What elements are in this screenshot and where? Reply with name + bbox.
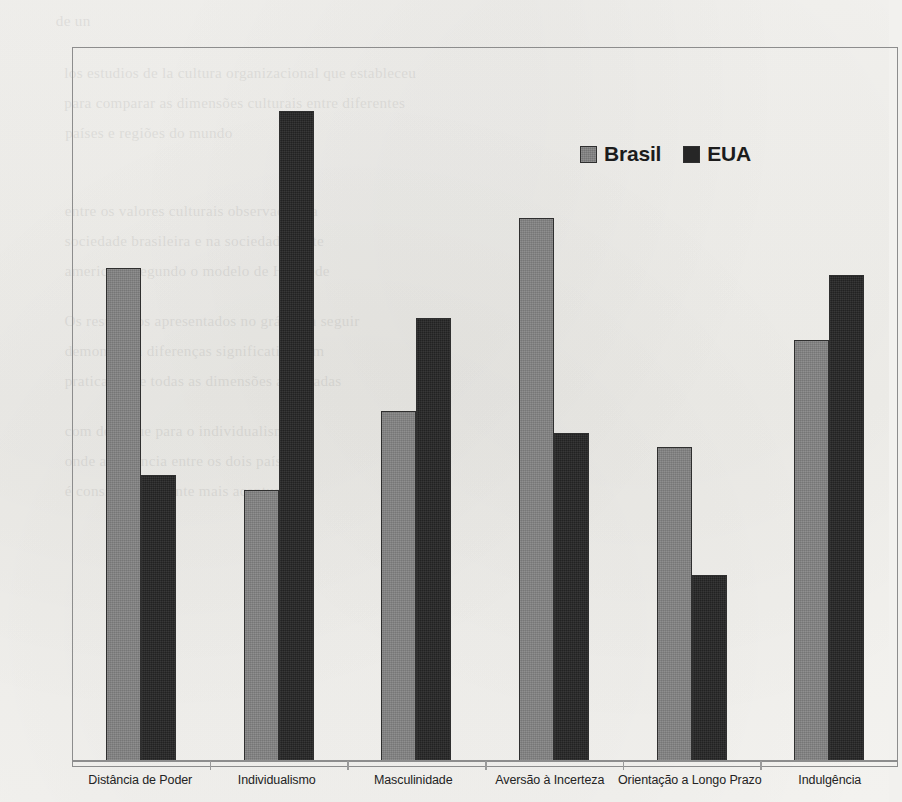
category-label-1: Individualismo [209,773,346,799]
plot-area [72,47,898,761]
category-label-5: Indulgência [762,773,899,799]
bar-eua-5[interactable] [829,275,864,761]
bar-brasil-2[interactable] [381,411,416,761]
legend-label-brasil: Brasil [604,142,661,166]
category-label-3: Aversão à Incerteza [482,773,619,799]
legend-label-eua: EUA [707,142,751,166]
bar-group [760,47,898,761]
bar-brasil-4[interactable] [657,447,692,761]
axis-tick-2 [347,761,349,770]
legend-entry-eua[interactable]: EUA [683,142,751,166]
legend-entry-brasil[interactable]: Brasil [580,142,661,166]
x-axis-category-labels: Distância de PoderIndividualismoMasculin… [72,773,898,799]
bar-brasil-5[interactable] [794,340,829,761]
legend-swatch-brasil-icon [580,146,597,163]
bar-groups [72,47,898,761]
bar-eua-0[interactable] [141,475,176,761]
bar-group [210,47,348,761]
bar-brasil-3[interactable] [519,218,554,761]
bar-brasil-0[interactable] [106,268,141,761]
hofstede-dimensions-bar-chart: Distância de PoderIndividualismoMasculin… [40,16,902,802]
bar-eua-4[interactable] [692,575,727,761]
bar-group [347,47,485,761]
axis-tick-1 [210,761,212,770]
category-label-2: Masculinidade [345,773,482,799]
axis-tick-3 [485,761,487,770]
axis-tick-5 [760,761,762,770]
bar-eua-3[interactable] [554,433,589,761]
bar-brasil-1[interactable] [244,490,279,761]
axis-tick-4 [623,761,625,770]
bar-eua-1[interactable] [279,111,314,761]
chart-legend: Brasil EUA [580,142,751,166]
bar-eua-2[interactable] [416,318,451,761]
legend-swatch-eua-icon [683,146,700,163]
category-label-0: Distância de Poder [72,773,209,799]
bar-group [72,47,210,761]
category-label-4: Orientação a Longo Prazo [618,773,762,799]
